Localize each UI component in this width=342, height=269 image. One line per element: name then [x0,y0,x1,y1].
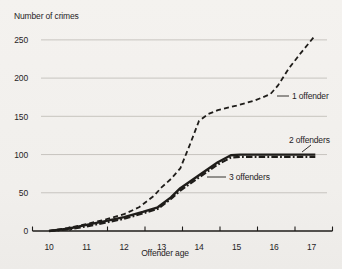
y-tick-label-0: 0 [23,226,28,236]
x-tick-label-10: 10 [44,242,54,252]
x-axis-label: Offender age [141,248,189,258]
gridlines [41,40,327,193]
x-tick-label-12: 12 [119,242,129,252]
line-annotations: 1 offender2 offenders3 offenders [207,91,330,182]
crime-chart: 050100150200250 1011121314151617 1 offen… [0,0,342,269]
y-tick-label-200: 200 [14,73,28,83]
series-line-3-offenders [49,157,315,231]
x-tick-label-17: 17 [307,242,317,252]
x-tick-label-11: 11 [82,242,91,252]
y-tick-label-250: 250 [14,35,28,45]
series-lines [49,38,315,231]
x-tick-label-16: 16 [269,242,279,252]
x-tick-label-15: 15 [232,242,242,252]
series-line-1-offender [49,38,313,231]
pointer-2-offenders [302,145,311,152]
y-tick-label-150: 150 [14,112,28,122]
chart-title: Number of crimes [14,11,79,21]
label-3-offenders: 3 offenders [229,172,270,182]
y-axis-tick-labels: 050100150200250 [14,35,28,236]
label-2-offenders: 2 offenders [289,135,330,145]
y-tick-label-100: 100 [14,150,28,160]
x-tick-label-14: 14 [194,242,204,252]
label-1-offender: 1 offender [292,91,329,101]
y-tick-label-50: 50 [19,188,29,198]
crime-figure: 050100150200250 1011121314151617 1 offen… [0,0,342,269]
